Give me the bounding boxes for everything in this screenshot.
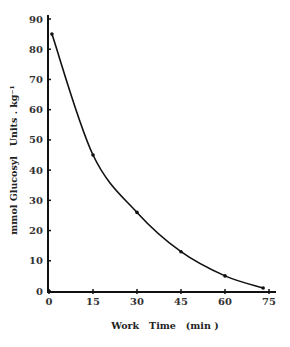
- x-tick-label: 0: [46, 296, 53, 307]
- x-axis-title: Work Time (min ): [110, 320, 218, 331]
- data-point: [179, 250, 183, 254]
- x-tick-label: 75: [262, 296, 276, 307]
- y-tick-label: 0: [36, 286, 43, 297]
- y-tick-label: 50: [29, 134, 43, 145]
- y-tick-label: 60: [29, 104, 43, 115]
- data-point: [223, 274, 227, 278]
- y-axis-title: mmol Glucosyl Units . kg⁻¹: [8, 85, 19, 234]
- y-tick-label: 90: [29, 14, 43, 25]
- chart: 010203040506070809001530456075 Work Time…: [0, 0, 290, 347]
- series-line: [52, 34, 263, 288]
- plot-area: [50, 32, 265, 289]
- y-tick-label: 20: [29, 225, 43, 236]
- data-point: [261, 286, 265, 290]
- data-point: [50, 32, 54, 36]
- x-tick-label: 30: [130, 296, 144, 307]
- x-tick-label: 15: [86, 296, 100, 307]
- axes: 010203040506070809001530456075: [29, 14, 276, 308]
- y-tick-label: 10: [29, 255, 43, 266]
- data-point: [135, 211, 139, 215]
- y-tick-label: 40: [29, 165, 43, 176]
- data-point: [91, 153, 95, 157]
- x-tick-label: 45: [174, 296, 188, 307]
- y-tick-label: 80: [29, 44, 43, 55]
- y-tick-label: 70: [29, 74, 43, 85]
- y-tick-label: 30: [29, 195, 43, 206]
- x-tick-label: 60: [218, 296, 232, 307]
